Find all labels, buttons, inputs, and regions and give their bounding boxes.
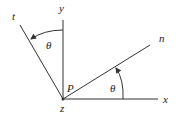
origin-point: [62, 98, 65, 101]
z-axis-label: z: [60, 103, 64, 114]
coordinate-rotation-diagram: y t n x z P θ θ: [0, 0, 176, 118]
x-axis-label: x: [163, 94, 168, 105]
angle-arc-top: [31, 30, 63, 39]
diagram-lines: [0, 0, 176, 118]
angle-arc-right: [116, 68, 123, 99]
t-axis-label: t: [12, 11, 15, 22]
n-axis-label: n: [159, 33, 165, 44]
point-label: P: [67, 83, 74, 94]
t-axis-line: [20, 25, 63, 99]
theta-label-right: θ: [110, 83, 115, 94]
y-axis-label: y: [59, 3, 64, 14]
n-axis-line: [63, 45, 150, 99]
theta-label-top: θ: [46, 40, 51, 51]
